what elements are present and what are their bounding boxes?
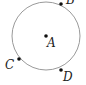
circle-diagram: B A C D xyxy=(0,0,86,85)
label-a: A xyxy=(46,36,56,50)
label-d: D xyxy=(62,70,73,84)
label-c: C xyxy=(5,58,14,72)
label-b: B xyxy=(65,0,75,7)
point-c xyxy=(17,57,21,61)
point-b xyxy=(59,2,63,6)
